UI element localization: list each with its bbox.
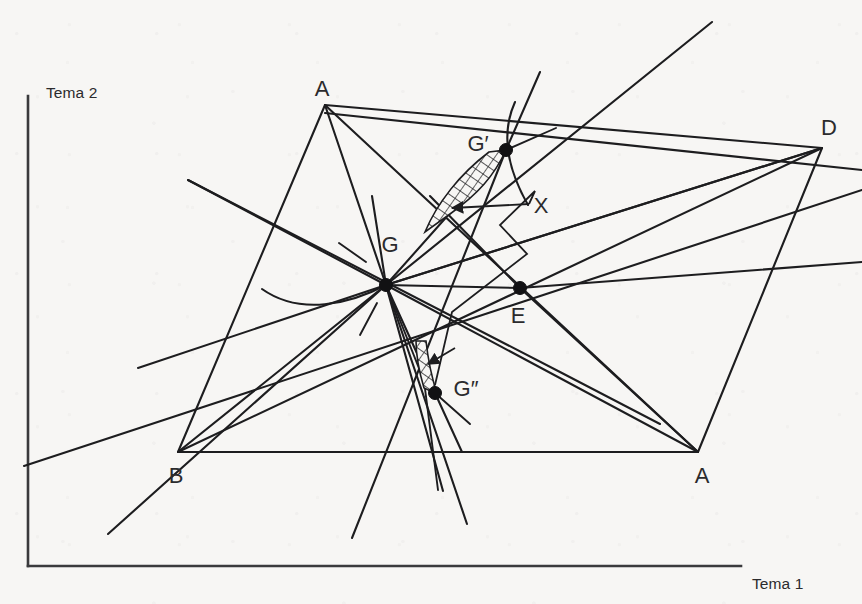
edge-b-to-a-top — [178, 105, 325, 452]
dot-g — [380, 279, 393, 292]
label-g-dprime: G″ — [454, 376, 479, 401]
label-g: G — [381, 232, 398, 257]
stub-below-g — [360, 303, 377, 335]
secant-a-top-to-right-edge — [325, 113, 862, 170]
geometric-figure: A D B A G G′ G″ E X Tema 2 Tema 1 — [0, 0, 862, 604]
secant-group — [24, 72, 862, 538]
dot-g-prime — [500, 144, 513, 157]
vertex-label-group: A D B A G G′ G″ E X — [169, 76, 837, 488]
edge-a-top-to-d — [325, 105, 822, 148]
axis-group — [28, 96, 741, 566]
secant-left-to-d — [24, 190, 862, 466]
cevian-group — [108, 22, 862, 534]
label-g-prime: G′ — [467, 131, 488, 156]
label-d: D — [821, 115, 837, 140]
diagram-canvas: A D B A G G′ G″ E X — [0, 0, 862, 604]
x-axis-label: Tema 1 — [752, 575, 803, 593]
label-b: B — [169, 463, 184, 488]
edge-d-to-a-bottom — [698, 148, 822, 452]
leader-to-lower-lune — [428, 348, 455, 364]
cevian-a-top-through-g — [325, 105, 467, 524]
construction-stub-group — [339, 128, 556, 424]
label-x: X — [534, 193, 549, 218]
label-e: E — [511, 303, 526, 328]
y-axis-label: Tema 2 — [46, 84, 97, 102]
secant-e-to-bottom-right — [430, 196, 698, 452]
dot-g-dprime — [429, 387, 442, 400]
label-a-bottom: A — [695, 463, 710, 488]
label-a-top: A — [315, 76, 330, 101]
dot-e — [514, 282, 527, 295]
